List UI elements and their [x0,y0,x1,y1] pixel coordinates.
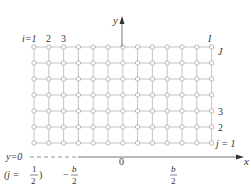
mesh-grid [32,45,214,145]
grid-node [47,141,51,145]
grid-node [121,61,125,65]
grid-node [61,125,65,129]
grid-node [150,61,154,65]
grid-node [135,77,139,81]
column-label-I: I [207,33,212,44]
grid-node [195,61,199,65]
grid-node [32,125,36,129]
grid-node [121,141,125,145]
neg-half-b-denominator: 2 [72,176,77,186]
grid-node [76,93,80,97]
grid-node [165,45,169,49]
grid-node [195,93,199,97]
grid-node [106,141,110,145]
grid-node [180,141,184,145]
grid-node [61,45,65,49]
x-axis-label: x [243,155,249,167]
grid-node [209,109,213,113]
grid-node [61,61,65,65]
y-axis-label: y [112,14,118,26]
column-label-2: 2 [46,33,51,44]
grid-node [195,109,199,113]
row-label-3: 3 [218,106,223,117]
grid-node [106,109,110,113]
grid-node [121,77,125,81]
grid-node [47,109,51,113]
grid-node [150,125,154,129]
y-zero-label: y=0 [5,151,22,162]
grid-node [195,45,199,49]
grid-node [209,93,213,97]
grid-node [180,61,184,65]
grid-node [135,125,139,129]
grid-node [195,141,199,145]
grid-node [32,45,36,49]
neg-half-b-numerator: b [72,164,77,174]
grid-node [209,77,213,81]
grid-node [32,61,36,65]
grid-node [76,45,80,49]
grid-node [91,109,95,113]
grid-node [61,93,65,97]
row-label-2: 2 [218,122,223,133]
grid-node [47,45,51,49]
grid-node [180,125,184,129]
grid-node [106,61,110,65]
grid-node [47,93,51,97]
grid-node [91,77,95,81]
grid-node [61,141,65,145]
grid-node [180,109,184,113]
grid-node [106,45,110,49]
grid-node [165,141,169,145]
grid-node [91,45,95,49]
grid-node [32,77,36,81]
grid-node [61,109,65,113]
grid-node [135,61,139,65]
grid-node [209,125,213,129]
grid-node [91,61,95,65]
grid-node [121,93,125,97]
j-half-close: ) [39,169,42,181]
grid-node [209,61,213,65]
grid-node [76,109,80,113]
neg-half-b-sign: − [63,169,69,180]
grid-node [76,77,80,81]
grid-node [165,93,169,97]
grid-node [150,141,154,145]
pos-half-b-denominator: 2 [171,176,176,186]
grid-node [47,77,51,81]
column-label-3: 3 [61,33,66,44]
grid-node [150,93,154,97]
grid-node [135,109,139,113]
grid-node [121,45,125,49]
grid-node [32,141,36,145]
grid-node [32,93,36,97]
grid-node [91,125,95,129]
column-label-i1: i=1 [22,33,37,44]
j-half-open: (j = [4,169,19,181]
grid-node [106,125,110,129]
grid-node [165,125,169,129]
grid-node [91,93,95,97]
grid-node [165,109,169,113]
grid-node [32,109,36,113]
grid-node [135,45,139,49]
j-half-numerator: 1 [32,164,37,174]
row-label-j1: j = 1 [214,138,236,149]
grid-node [180,93,184,97]
grid-node [165,77,169,81]
y-axis-arrow-icon [120,16,125,24]
row-label-J: J [218,46,223,57]
grid-node [180,77,184,81]
pos-half-b-numerator: b [171,164,176,174]
grid-node [150,77,154,81]
grid-node [76,61,80,65]
grid-node [195,77,199,81]
grid-node [47,61,51,65]
grid-node [91,141,95,145]
grid-node [135,93,139,97]
grid-node [150,45,154,49]
grid-node [180,45,184,49]
grid-node [165,61,169,65]
origin-label: 0 [119,156,124,167]
